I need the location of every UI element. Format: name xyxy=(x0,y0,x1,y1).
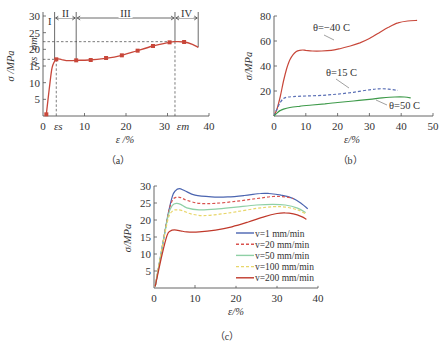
region-label: IV xyxy=(181,8,192,19)
legend-label: v=50 mm/min xyxy=(255,251,309,261)
chart-a-caption: （a） xyxy=(106,155,130,166)
chart-a-annotations: σmσsεsεmIIIIIIIV xyxy=(28,8,198,132)
x-tick-label: 30 xyxy=(159,120,171,132)
figure: 01020304051015202530 σmσsεsεmIIIIIIIV σ … xyxy=(0,0,446,350)
x-tick-label: 10 xyxy=(300,120,312,132)
region-label: III xyxy=(120,8,131,19)
chart-b: 0102030405020406080 θ=−40 Cθ=15 Cθ=50 C … xyxy=(243,10,439,166)
chart-a-ylabel: σ /MPa xyxy=(5,50,16,81)
region-label: I xyxy=(48,16,52,27)
x-tick-label: 10 xyxy=(190,292,202,304)
data-marker xyxy=(168,40,172,44)
y-tick-label: 25 xyxy=(29,27,41,39)
x-tick-label: 20 xyxy=(332,120,344,132)
data-marker xyxy=(151,44,155,48)
legend-label: v=200 mm/min xyxy=(255,273,314,283)
x-tick-label: 20 xyxy=(121,120,133,132)
data-marker xyxy=(54,57,58,61)
y-tick-label: 30 xyxy=(140,180,152,192)
chart-c: 01020304051015202530 v=1 mm/minv=20 mm/m… xyxy=(122,180,346,342)
legend-label: v=20 mm/min xyxy=(255,240,309,250)
sigma-m-label: σm xyxy=(28,37,39,50)
series-line xyxy=(46,42,198,115)
sigma-s-label: σs xyxy=(28,57,39,66)
y-tick-label: 80 xyxy=(260,10,272,22)
chart-c-caption: （c） xyxy=(215,331,239,342)
y-tick-label: 10 xyxy=(29,77,41,89)
epsilon-s-label: εs xyxy=(54,120,63,132)
chart-b-caption: （b） xyxy=(338,155,363,166)
x-tick-label: 40 xyxy=(204,120,216,132)
epsilon-m-label: εm xyxy=(177,120,189,132)
chart-b-xlabel: ε/% xyxy=(344,134,360,145)
data-marker xyxy=(136,49,140,53)
chart-b-ylabel: σ/MPa xyxy=(243,52,254,81)
series-label: θ=15 C xyxy=(326,67,357,78)
y-tick-label: 20 xyxy=(140,214,152,226)
data-marker xyxy=(182,40,186,44)
y-tick-label: 20 xyxy=(260,85,272,97)
chart-c-legend: v=1 mm/minv=20 mm/minv=50 mm/minv=100 mm… xyxy=(234,228,346,286)
y-tick-label: 30 xyxy=(29,10,41,22)
y-tick-label: 60 xyxy=(260,35,272,47)
x-tick-label: 50 xyxy=(428,120,440,132)
legend-label: v=1 mm/min xyxy=(255,229,305,239)
x-tick-label: 0 xyxy=(271,120,277,132)
y-tick-label: 40 xyxy=(260,60,272,72)
data-marker xyxy=(120,53,124,57)
chart-a: 01020304051015202530 σmσsεsεmIIIIIIIV σ … xyxy=(5,8,215,166)
y-tick-label: 15 xyxy=(140,231,152,243)
data-marker xyxy=(44,112,48,116)
y-tick-label: 10 xyxy=(140,248,152,260)
data-marker xyxy=(104,56,108,60)
x-tick-label: 40 xyxy=(396,120,408,132)
chart-a-axes: 01020304051015202530 xyxy=(29,10,215,132)
x-tick-label: 30 xyxy=(272,292,284,304)
y-tick-label: 25 xyxy=(140,197,152,209)
y-tick-label: 5 xyxy=(35,93,41,105)
chart-a-xlabel: ε /% xyxy=(116,134,135,145)
chart-c-ylabel: σ/MPa xyxy=(122,224,133,253)
data-marker xyxy=(74,58,78,62)
region-label: II xyxy=(62,8,69,19)
chart-c-xlabel: ε/% xyxy=(228,306,244,317)
x-tick-label: 20 xyxy=(231,292,243,304)
series-label: θ=50 C xyxy=(389,100,420,111)
series-label: θ=−40 C xyxy=(313,22,350,33)
x-tick-label: 10 xyxy=(79,120,91,132)
x-tick-label: 0 xyxy=(40,120,46,132)
legend-label: v=100 mm/min xyxy=(255,262,314,272)
x-tick-label: 40 xyxy=(313,292,325,304)
y-tick-label: 5 xyxy=(146,265,152,277)
x-tick-label: 0 xyxy=(151,292,157,304)
chart-b-plot: θ=−40 Cθ=15 Cθ=50 C xyxy=(274,20,420,116)
data-marker xyxy=(89,58,93,62)
x-tick-label: 30 xyxy=(364,120,376,132)
